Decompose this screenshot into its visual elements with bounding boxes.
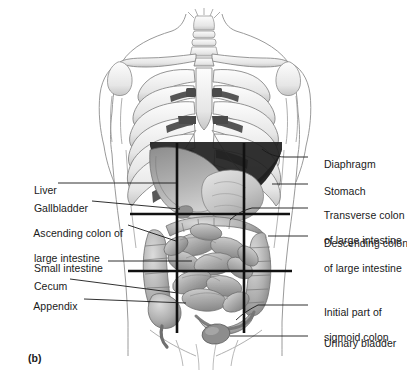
label-urinary-bladder-text: Urinary bladder [324, 337, 397, 349]
label-diaphragm-text: Diaphragm [324, 158, 376, 170]
label-transverse-colon-text-line1: Transverse colon [324, 209, 405, 221]
anatomical-figure: Liver Gallbladder Ascending colon of lar… [0, 0, 407, 387]
figure-caption: (b) [28, 352, 41, 364]
label-descending-colon-text-line2: of large intestine [324, 262, 402, 274]
abdominal-organs [143, 142, 282, 347]
label-sigmoid-colon-text-line1: Initial part of [324, 306, 382, 318]
label-urinary-bladder: Urinary bladder [312, 324, 396, 362]
label-descending-colon-text-line1: Descending colon [324, 237, 407, 249]
cervical-spine [190, 16, 218, 56]
label-ascending-colon-text-line1: Ascending colon of [33, 227, 123, 239]
sternum [194, 58, 214, 130]
label-stomach-text: Stomach [324, 185, 366, 197]
label-appendix-text: Appendix [33, 300, 77, 312]
appendix-organ [161, 326, 167, 347]
label-descending-colon: Descending colon of large intestine [312, 224, 407, 287]
label-gallbladder-text: Gallbladder [34, 202, 88, 214]
label-appendix: Appendix [22, 287, 77, 325]
